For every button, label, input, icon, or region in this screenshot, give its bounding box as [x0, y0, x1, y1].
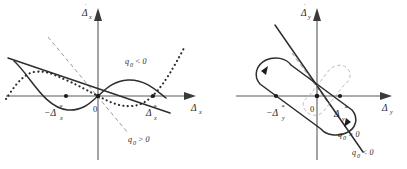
left-q0-negative-label: q 0 < 0: [125, 57, 146, 68]
left-x-axis-label: Δ x: [190, 103, 202, 115]
svg-text:−Δ: −Δ: [266, 108, 278, 118]
svg-text:x: x: [153, 114, 157, 121]
right-q0-negative-label: q 0 < 0: [352, 148, 373, 159]
figure-container: Δ ˙ x Δ x 0 −Δ x * Δ x * q 0 < 0: [0, 0, 407, 169]
left-q0-positive-label: q 0 > 0: [128, 135, 149, 146]
svg-text:y: y: [307, 13, 311, 20]
svg-text:q: q: [352, 148, 356, 157]
left-equilibrium-negative-marker: [64, 94, 68, 98]
svg-text:*: *: [344, 104, 348, 112]
svg-text:> 0: > 0: [138, 135, 149, 144]
svg-text:q: q: [128, 135, 132, 144]
svg-text:Δ: Δ: [145, 108, 152, 118]
svg-text:> 0: > 0: [348, 130, 359, 139]
svg-text:0: 0: [343, 134, 347, 141]
svg-text:< 0: < 0: [135, 57, 146, 66]
svg-text:x: x: [88, 13, 92, 20]
left-y-axis-label: Δ ˙ x: [81, 2, 92, 20]
svg-text:Δ: Δ: [333, 109, 340, 119]
svg-text:−Δ: −Δ: [44, 108, 56, 118]
left-dotted-s-curve: [6, 48, 184, 106]
right-origin-label: 0: [310, 104, 314, 114]
svg-text:Δ: Δ: [381, 103, 388, 113]
right-y-axis-label: Δ ˙ y: [300, 2, 311, 20]
svg-text:˙: ˙: [84, 2, 86, 10]
svg-text:0: 0: [357, 152, 361, 159]
left-solid-straight-line: [8, 58, 170, 113]
right-x-axis-arrowhead: [380, 92, 392, 100]
left-y-axis-arrowhead: [94, 8, 102, 21]
left-origin-marker: [96, 94, 101, 99]
svg-text:< 0: < 0: [362, 148, 373, 157]
svg-text:Δ: Δ: [190, 103, 197, 113]
svg-text:y: y: [341, 115, 345, 122]
left-origin-label: 0: [93, 104, 97, 114]
svg-text:x: x: [198, 108, 202, 115]
right-loop-arrow-lower: [344, 118, 351, 127]
svg-text:0: 0: [133, 139, 137, 146]
svg-text:q: q: [125, 57, 129, 66]
svg-text:y: y: [281, 114, 285, 121]
right-equilibrium-positive-marker: [338, 94, 342, 98]
left-equilibrium-negative-label: −Δ x *: [44, 103, 63, 121]
svg-text:x: x: [59, 114, 63, 121]
right-y-axis-arrowhead: [313, 8, 321, 21]
left-equilibrium-positive-marker: [151, 94, 155, 98]
svg-text:*: *: [59, 103, 63, 111]
svg-text:*: *: [281, 103, 285, 111]
svg-text:y: y: [389, 108, 393, 115]
svg-text:*: *: [153, 103, 157, 111]
left-x-axis-arrowhead: [184, 92, 196, 100]
phase-plane-figure: Δ ˙ x Δ x 0 −Δ x * Δ x * q 0 < 0: [0, 0, 407, 169]
right-equilibrium-negative-label: −Δ y *: [266, 103, 285, 121]
svg-text:˙: ˙: [303, 2, 305, 10]
svg-text:0: 0: [130, 61, 134, 68]
right-equilibrium-negative-marker: [274, 94, 278, 98]
right-loop-arrow-upper: [261, 66, 268, 75]
right-panel: Δ ˙ y Δ y 0 −Δ y * Δ y * q 0 > 0: [236, 2, 393, 160]
right-origin-marker: [315, 94, 320, 99]
right-x-axis-label: Δ y: [381, 103, 393, 115]
right-q0-positive-label: q 0 > 0: [338, 130, 359, 141]
left-panel: Δ ˙ x Δ x 0 −Δ x * Δ x * q 0 < 0: [6, 2, 202, 160]
svg-text:q: q: [338, 130, 342, 139]
